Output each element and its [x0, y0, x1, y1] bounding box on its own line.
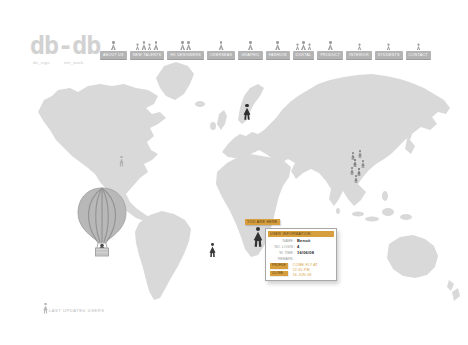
user-marker-selected[interactable]	[253, 227, 263, 247]
island-ireland	[210, 122, 216, 130]
world-map	[0, 0, 468, 345]
continent-australia	[387, 235, 438, 278]
tooltip-row: NO. LOGIN : 4	[268, 245, 334, 250]
island-borneo	[382, 208, 394, 216]
tooltip-label: NO. LOGIN :	[268, 245, 297, 249]
island-java	[365, 217, 379, 222]
island-newguinea	[400, 214, 412, 220]
user-marker-atlantic[interactable]	[209, 243, 216, 257]
hot-air-balloon-icon[interactable]	[74, 186, 130, 258]
user-marker-asia[interactable]	[354, 175, 358, 183]
tooltip-header: USER INFORMATION	[268, 231, 334, 237]
island-new-zealand-s	[452, 288, 460, 301]
island-sumatra	[352, 212, 364, 217]
page: db-db de_sign net_work ABOUT US NEW TALE…	[0, 0, 468, 345]
tooltip-value: 16/06/08	[297, 251, 314, 256]
user-marker-usa[interactable]	[119, 156, 124, 167]
tooltip-remark: COME FLY AT 12:45 PM 16 JUN 08	[293, 263, 318, 277]
tooltip-row: W. TIME : 16/06/08	[268, 251, 334, 256]
tooltip-value: 4	[297, 245, 299, 250]
tooltip-value: Benoit	[297, 239, 311, 244]
tooltip-close-button[interactable]: CLOSE	[270, 271, 288, 277]
tooltip-label: REMARK :	[268, 257, 297, 261]
footer-person-icon	[43, 303, 48, 314]
footer-label: LAST UPDATED USERS	[49, 308, 105, 313]
tooltip-label: W. TIME :	[268, 251, 297, 255]
tooltip-row: NAME : Benoit	[268, 239, 334, 244]
island-philippines	[382, 191, 388, 201]
user-marker-asia[interactable]	[350, 167, 354, 175]
user-marker-asia[interactable]	[358, 150, 362, 158]
island-greenland	[156, 62, 194, 100]
you-are-here-tag[interactable]: YOU ARE HERE	[245, 219, 280, 225]
continent-south-america	[135, 211, 191, 300]
tooltip-label: NAME :	[268, 239, 297, 243]
island-iceland	[195, 101, 205, 107]
tooltip-row: REMARK :	[268, 257, 334, 261]
island-srilanka	[336, 208, 340, 214]
user-marker-asia[interactable]	[361, 160, 365, 168]
island-new-zealand-n	[447, 280, 454, 291]
user-marker-sweden[interactable]	[243, 104, 251, 120]
user-marker-asia[interactable]	[353, 159, 357, 167]
user-tooltip: USER INFORMATION NAME : Benoit NO. LOGIN…	[265, 228, 337, 281]
region-scandinavia	[238, 84, 264, 124]
tooltip-profile-button[interactable]: PROFILE	[270, 263, 288, 269]
island-uk	[217, 110, 227, 130]
